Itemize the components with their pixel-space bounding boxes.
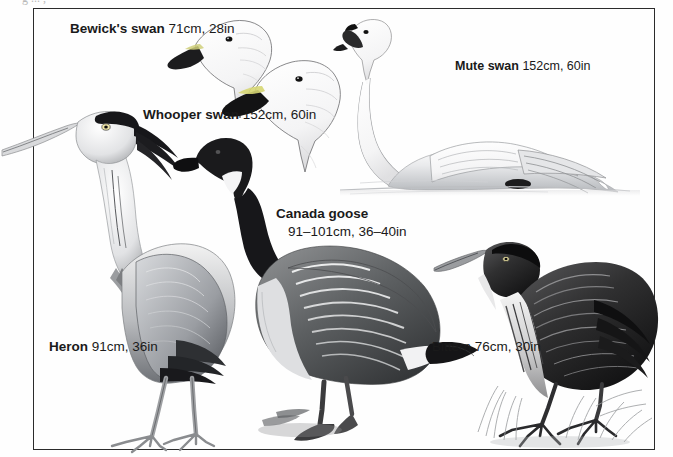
species-name: Canada goose (276, 206, 368, 221)
bird-plate: g ... , (0, 0, 673, 457)
species-size: 91cm, 36in (92, 339, 158, 354)
species-name: Whooper swan (143, 107, 243, 122)
label-mute-swan: Mute swan 152cm, 60in (455, 58, 590, 75)
species-size: 152cm, 60in (522, 59, 590, 73)
species-size: 91–101cm, 36–40in (288, 223, 407, 241)
label-heron: Heron 91cm, 36in (49, 338, 158, 356)
label-bewicks-swan: Bewick's swan 71cm, 28in (70, 20, 235, 38)
species-size: 76cm, 30in (475, 339, 541, 354)
species-size: 152cm, 60in (243, 107, 317, 122)
label-bittern: Bittern 76cm, 30in (432, 338, 541, 356)
label-whooper-swan: Whooper swan 152cm, 60in (143, 106, 316, 124)
species-name: Heron (49, 339, 92, 354)
label-canada-goose: Canada goose 91–101cm, 36–40in (276, 205, 407, 241)
species-name: Mute swan (455, 59, 522, 73)
species-name: Bewick's swan (70, 21, 169, 36)
mute-swan-illustration (333, 19, 640, 196)
species-size: 71cm, 28in (169, 21, 235, 36)
species-name: Bittern (432, 339, 475, 354)
